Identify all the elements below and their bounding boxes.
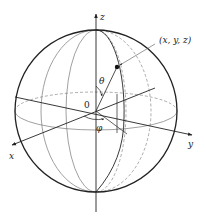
spherical-coordinates-diagram: z y x 0 θ φ (x, y, z) (0, 0, 206, 217)
theta-label: θ (99, 76, 105, 86)
x-axis-label: x (9, 151, 14, 161)
point-marker (115, 65, 119, 69)
y-axis (15, 97, 192, 135)
point-meridian (96, 30, 124, 192)
y-axis-label: y (187, 139, 194, 149)
z-axis-label: z (99, 12, 105, 22)
origin-label: 0 (84, 100, 90, 110)
phi-arc (84, 116, 104, 120)
theta-arc (96, 86, 102, 96)
point-label: (x, y, z) (159, 35, 192, 45)
x-axis (12, 88, 155, 145)
point-label-leader (120, 44, 155, 65)
phi-label: φ (96, 123, 103, 133)
